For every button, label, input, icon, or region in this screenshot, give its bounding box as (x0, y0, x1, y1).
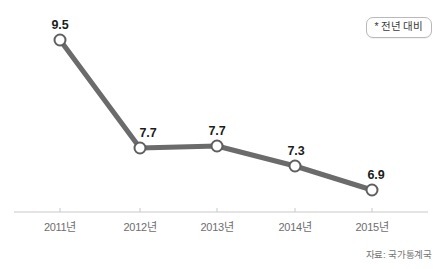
x-axis-category-label: 2011년 (44, 218, 76, 234)
data-point-marker (290, 161, 301, 172)
x-axis-category-label: 2012년 (124, 218, 157, 234)
data-point-marker (55, 35, 66, 46)
x-axis-tick-marks (60, 208, 372, 212)
data-value-label: 9.5 (51, 18, 68, 32)
data-value-label: 7.7 (208, 124, 225, 138)
data-point-markers (55, 35, 378, 196)
data-line (60, 40, 372, 190)
data-point-marker (135, 143, 146, 154)
data-value-label: 7.7 (139, 126, 156, 140)
chart-container: 9.57.77.77.36.9 2011년2012년2013년2014년2015… (0, 0, 440, 269)
x-axis-category-label: 2013년 (201, 218, 234, 234)
data-value-label: 7.3 (287, 144, 304, 158)
source-attribution: 자료: 국가통계국 (366, 247, 432, 261)
data-value-label: 6.9 (367, 168, 384, 182)
x-axis-category-label: 2014년 (279, 218, 312, 234)
data-point-marker (367, 185, 378, 196)
x-axis-category-label: 2015년 (356, 218, 389, 234)
legend-badge: * 전년 대비 (366, 17, 432, 38)
data-point-marker (212, 141, 223, 152)
